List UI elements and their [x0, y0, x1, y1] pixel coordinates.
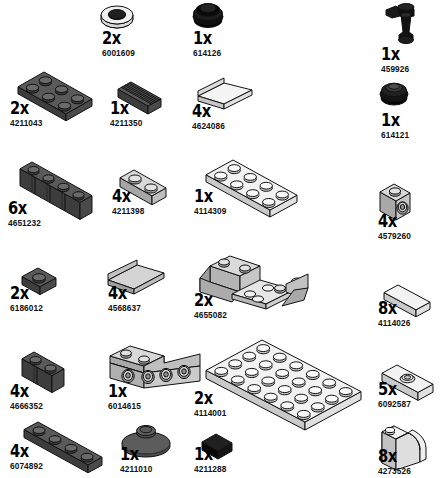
part-label: 8x4273526 — [378, 448, 414, 476]
part-number: 4114026 — [378, 318, 410, 328]
part-quantity: 2x — [194, 292, 225, 309]
part-quantity: 2x — [102, 30, 133, 47]
part-quantity: 8x — [378, 300, 408, 317]
part-quantity: 2x — [10, 100, 40, 117]
part-quantity: 1x — [381, 112, 407, 129]
part-number: 4114309 — [194, 206, 226, 216]
part-number: 4211043 — [10, 118, 42, 128]
part-number: 4211398 — [112, 206, 144, 216]
part-number: 4568637 — [108, 303, 141, 313]
part-quantity: 2x — [10, 285, 41, 302]
part-number: 4211288 — [194, 464, 226, 474]
part-quantity: 4x — [378, 213, 409, 230]
part-label: 4x4579260 — [378, 213, 414, 241]
part-label: 2x4114001 — [194, 390, 229, 418]
part-label: 4x6074892 — [10, 443, 46, 471]
part-number: 4579260 — [378, 231, 411, 241]
part-quantity: 4x — [108, 285, 139, 302]
part-quantity: 2x — [194, 390, 224, 407]
part-number: 614121 — [381, 130, 409, 140]
part-label: 5x6092587 — [378, 381, 414, 409]
part-label: 4x4624086 — [192, 103, 228, 131]
part-quantity: 5x — [378, 381, 409, 398]
part-quantity: 1x — [194, 188, 224, 205]
part-quantity: 4x — [192, 103, 223, 120]
part-label: 6x4651232 — [8, 200, 44, 228]
part-number: 4651232 — [8, 218, 41, 228]
part-number: 6014615 — [108, 401, 141, 411]
part-quantity: 1x — [108, 383, 139, 400]
part-label: 1x4211350 — [110, 100, 145, 128]
part-number: 6001609 — [102, 48, 135, 58]
part-number: 614126 — [193, 48, 221, 58]
part-label: 1x614126 — [193, 30, 224, 58]
part-label: 2x6001609 — [102, 30, 138, 58]
part-number: 4273526 — [378, 466, 411, 476]
part-quantity: 1x — [120, 446, 150, 463]
part-quantity: 1x — [194, 446, 224, 463]
part-label: 4x4666352 — [10, 383, 46, 411]
part-quantity: 6x — [8, 200, 39, 217]
part-label: 1x4211010 — [120, 446, 155, 474]
part-label: 2x4211043 — [10, 100, 45, 128]
part-number: 6074892 — [10, 461, 43, 471]
part-number: 4211010 — [120, 464, 152, 474]
part-number: 459926 — [381, 64, 409, 74]
part-quantity: 1x — [381, 46, 407, 63]
part-label: 2x6186012 — [10, 285, 46, 313]
part-label: 8x4114026 — [378, 300, 413, 328]
part-label: 1x4211288 — [194, 446, 229, 474]
part-quantity: 4x — [112, 188, 142, 205]
part-quantity: 1x — [110, 100, 140, 117]
part-number: 4655082 — [194, 310, 227, 320]
part-quantity: 4x — [10, 383, 41, 400]
parts-inventory-sheet: 2x60016091x6141261x4599262x42110431x4211… — [0, 0, 444, 478]
part-quantity: 8x — [378, 448, 409, 465]
part-number: 4624086 — [192, 121, 225, 131]
part-number: 4114001 — [194, 408, 226, 418]
part-label: 1x459926 — [381, 46, 412, 74]
part-label: 4x4211398 — [112, 188, 147, 216]
part-label: 4x4568637 — [108, 285, 144, 313]
part-label: 1x614121 — [381, 112, 412, 140]
part-number: 6186012 — [10, 303, 43, 313]
part-quantity: 1x — [193, 30, 219, 47]
part-label: 1x6014615 — [108, 383, 144, 411]
part-label: 2x4655082 — [194, 292, 230, 320]
part-label: 1x4114309 — [194, 188, 229, 216]
part-number: 6092587 — [378, 399, 411, 409]
part-number: 4666352 — [10, 401, 43, 411]
part-number: 4211350 — [110, 118, 142, 128]
part-quantity: 4x — [10, 443, 41, 460]
